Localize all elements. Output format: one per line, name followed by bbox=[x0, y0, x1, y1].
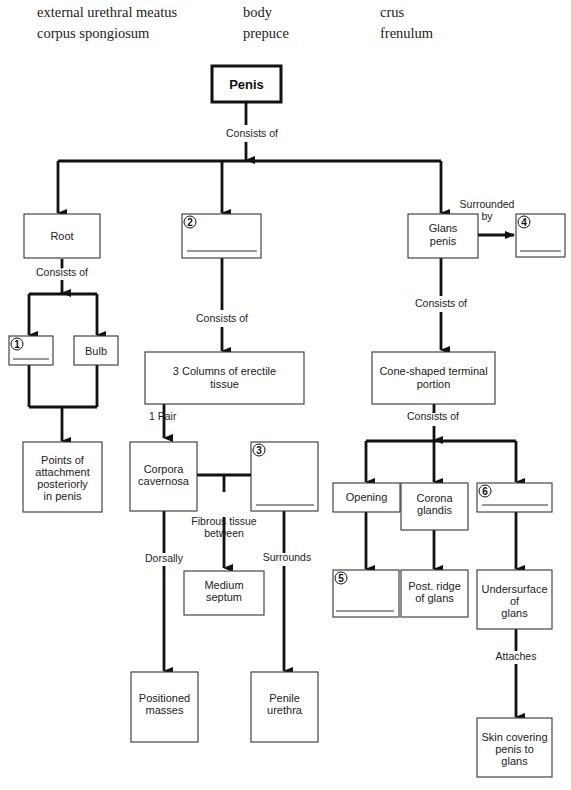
svg-text:Glans: Glans bbox=[429, 222, 458, 234]
svg-text:2: 2 bbox=[187, 217, 193, 228]
svg-text:Corona: Corona bbox=[416, 492, 453, 504]
node-skin-covering: Skin covering penis to glans bbox=[477, 718, 552, 777]
svg-text:Skin covering: Skin covering bbox=[481, 731, 547, 743]
svg-text:urethra: urethra bbox=[267, 704, 303, 716]
label-surrounded-by: by bbox=[481, 210, 493, 222]
svg-text:cavernosa: cavernosa bbox=[138, 475, 190, 487]
node-3-columns: 3 Columns of erectile tissue bbox=[145, 352, 304, 404]
svg-text:in penis: in penis bbox=[44, 490, 82, 502]
svg-text:masses: masses bbox=[146, 704, 184, 716]
svg-text:of: of bbox=[510, 595, 520, 607]
svg-text:Corpora: Corpora bbox=[144, 463, 185, 475]
node-root: Root bbox=[24, 214, 100, 258]
svg-text:Root: Root bbox=[50, 230, 73, 242]
svg-text:Opening: Opening bbox=[346, 491, 388, 503]
node-blank-3[interactable]: 3 bbox=[251, 442, 318, 511]
node-positioned-masses: Positioned masses bbox=[131, 672, 198, 742]
label-body-consists: Consists of bbox=[196, 312, 248, 324]
label-surrounds: Surrounds bbox=[263, 551, 311, 563]
svg-text:of glans: of glans bbox=[415, 592, 454, 604]
svg-text:Medium: Medium bbox=[204, 579, 243, 591]
label-surrounded-by: Surrounded bbox=[460, 198, 515, 210]
node-blank-2[interactable]: 2 bbox=[182, 214, 261, 258]
svg-text:Undersurface: Undersurface bbox=[481, 583, 547, 595]
svg-text:penis to: penis to bbox=[495, 743, 534, 755]
svg-text:septum: septum bbox=[206, 591, 242, 603]
svg-text:3 Columns of erectile: 3 Columns of erectile bbox=[173, 365, 276, 377]
svg-text:3: 3 bbox=[256, 445, 262, 456]
node-penis: Penis bbox=[212, 66, 281, 102]
label-glans-consists: Consists of bbox=[415, 297, 467, 309]
svg-text:portion: portion bbox=[417, 378, 451, 390]
label-cone-consists: Consists of bbox=[407, 410, 459, 422]
svg-text:4: 4 bbox=[521, 217, 527, 228]
svg-text:Penile: Penile bbox=[269, 692, 300, 704]
svg-text:glans: glans bbox=[501, 607, 528, 619]
label-penis-consists: Consists of bbox=[226, 127, 278, 139]
svg-text:1: 1 bbox=[14, 339, 20, 350]
svg-text:Bulb: Bulb bbox=[85, 345, 107, 357]
svg-text:Cone-shaped terminal: Cone-shaped terminal bbox=[379, 365, 487, 377]
svg-text:Positioned: Positioned bbox=[139, 692, 190, 704]
svg-text:tissue: tissue bbox=[210, 378, 239, 390]
node-post-ridge: Post. ridge of glans bbox=[401, 570, 468, 617]
node-opening: Opening bbox=[333, 483, 400, 512]
node-bulb: Bulb bbox=[74, 336, 118, 365]
svg-text:posteriorly: posteriorly bbox=[37, 478, 88, 490]
svg-text:penis: penis bbox=[430, 235, 457, 247]
node-blank-4[interactable]: 4 bbox=[516, 214, 565, 257]
concept-map: Penis Root 2 Glans penis 4 1 Bulb bbox=[0, 0, 571, 790]
svg-text:Points of: Points of bbox=[41, 454, 85, 466]
node-corpora-cavernosa: Corpora cavernosa bbox=[130, 442, 197, 511]
node-undersurface: Undersurface of glans bbox=[477, 570, 552, 629]
svg-text:5: 5 bbox=[338, 573, 344, 584]
node-blank-5[interactable]: 5 bbox=[333, 570, 399, 617]
svg-text:glandis: glandis bbox=[417, 504, 452, 516]
node-medium-septum: Medium septum bbox=[184, 571, 264, 615]
label-fibrous-tissue: Fibrous tissue bbox=[191, 515, 257, 527]
svg-text:6: 6 bbox=[482, 486, 488, 497]
node-blank-6[interactable]: 6 bbox=[477, 483, 552, 512]
svg-text:glans: glans bbox=[501, 755, 528, 767]
node-glans-penis: Glans penis bbox=[408, 214, 478, 258]
node-corona-glandis: Corona glandis bbox=[401, 483, 468, 530]
svg-text:Post. ridge: Post. ridge bbox=[408, 580, 461, 592]
node-penile-urethra: Penile urethra bbox=[251, 672, 318, 742]
node-points-of-attachment: Points of attachment posteriorly in peni… bbox=[23, 442, 102, 512]
node-title: Penis bbox=[229, 77, 264, 92]
node-blank-1[interactable]: 1 bbox=[9, 336, 53, 365]
label-root-consists: Consists of bbox=[36, 266, 88, 278]
label-attaches: Attaches bbox=[496, 650, 537, 662]
label-one-pair: 1 Pair bbox=[149, 410, 177, 422]
label-dorsally: Dorsally bbox=[145, 552, 184, 564]
node-cone-shaped: Cone-shaped terminal portion bbox=[372, 352, 495, 404]
svg-text:attachment: attachment bbox=[35, 466, 89, 478]
label-fibrous-tissue: between bbox=[204, 527, 244, 539]
